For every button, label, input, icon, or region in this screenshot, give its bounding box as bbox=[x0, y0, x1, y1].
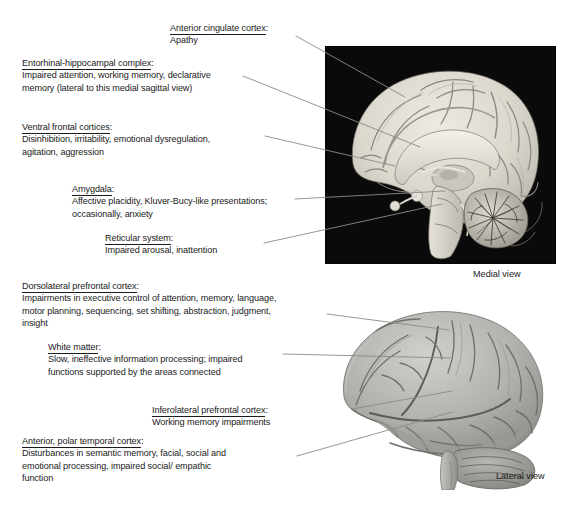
annotation-heading: Anterior cingulate cortex bbox=[170, 23, 266, 35]
annotation-colon: : bbox=[98, 342, 100, 352]
annotation-colon: : bbox=[171, 233, 173, 243]
annotation-body-line: Impaired attention, working memory, decl… bbox=[22, 69, 211, 81]
annotation-body-line: functions supported by the areas connect… bbox=[48, 366, 242, 378]
annotation-body-line: Working memory impairments bbox=[152, 416, 270, 428]
annotation-colon: : bbox=[141, 436, 143, 446]
annotation-body-line: motor planning, sequencing, set shifting… bbox=[22, 305, 276, 317]
annotation-colon: : bbox=[151, 58, 153, 68]
annotation-colon: : bbox=[110, 122, 112, 132]
annotation-body-line: Slow, ineffective information processing… bbox=[48, 353, 242, 365]
annotation-reticular-system: Reticular system: Impaired arousal, inat… bbox=[105, 232, 217, 257]
annotation-body-line: Impairments in executive control of atte… bbox=[22, 292, 276, 304]
lateral-view-image bbox=[330, 305, 565, 490]
annotation-body-line: Disinhibition, irritability, emotional d… bbox=[22, 133, 210, 145]
annotation-colon: : bbox=[266, 23, 268, 33]
annotation-amygdala: Amygdala: Affective placidity, Kluver-Bu… bbox=[72, 183, 267, 220]
figure-canvas: Anterior cingulate cortex: Apathy Entorh… bbox=[0, 0, 570, 507]
annotation-body-line: emotional processing, impaired social/ e… bbox=[22, 460, 226, 472]
annotation-heading: Entorhinal-hippocampal complex bbox=[22, 58, 151, 70]
annotation-colon: : bbox=[137, 281, 139, 291]
annotation-inferolateral-prefrontal-cortex: Inferolateral prefrontal cortex: Working… bbox=[152, 404, 270, 429]
annotation-white-matter: White matter: Slow, ineffective informat… bbox=[48, 341, 242, 378]
annotation-anterior-cingulate-cortex: Anterior cingulate cortex: Apathy bbox=[170, 22, 268, 47]
annotation-body-line: Apathy bbox=[170, 34, 268, 46]
annotation-colon: : bbox=[112, 184, 114, 194]
annotation-heading: Anterior, polar temporal cortex bbox=[22, 436, 141, 448]
annotation-heading: Reticular system bbox=[105, 233, 171, 245]
annotation-body-line: Affective placidity, Kluver-Bucy-like pr… bbox=[72, 195, 267, 207]
annotation-heading: Ventral frontal cortices bbox=[22, 122, 110, 134]
annotation-body-line: insight bbox=[22, 317, 276, 329]
annotation-body-line: function bbox=[22, 472, 226, 484]
annotation-entorhinal-hippocampal-complex: Entorhinal-hippocampal complex: Impaired… bbox=[22, 57, 211, 94]
annotation-body-line: agitation, aggression bbox=[22, 146, 210, 158]
annotation-body-line: Disturbances in semantic memory, facial,… bbox=[22, 447, 226, 459]
caption-lateral-view: Lateral view bbox=[496, 470, 545, 482]
annotation-colon: : bbox=[265, 405, 267, 415]
annotation-ventral-frontal-cortices: Ventral frontal cortices: Disinhibition,… bbox=[22, 121, 210, 158]
annotation-heading: Amygdala bbox=[72, 184, 112, 196]
annotation-anterior-polar-temporal-cortex: Anterior, polar temporal cortex: Disturb… bbox=[22, 435, 226, 484]
annotation-dorsolateral-prefrontal-cortex: Dorsolateral prefrontal cortex: Impairme… bbox=[22, 280, 276, 329]
caption-medial-view: Medial view bbox=[473, 268, 521, 280]
annotation-heading: White matter bbox=[48, 342, 98, 354]
medial-view-image bbox=[325, 46, 556, 264]
annotation-body-line: occasionally, anxiety bbox=[72, 208, 267, 220]
annotation-heading: Dorsolateral prefrontal cortex bbox=[22, 281, 137, 293]
annotation-body-line: memory (lateral to this medial sagittal … bbox=[22, 82, 211, 94]
annotation-heading: Inferolateral prefrontal cortex bbox=[152, 405, 265, 417]
annotation-body-line: Impaired arousal, inattention bbox=[105, 244, 217, 256]
